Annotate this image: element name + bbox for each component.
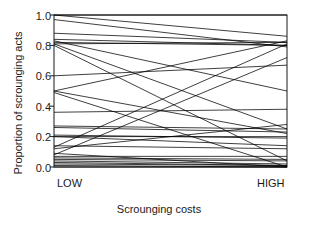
y-axis-ticks xyxy=(50,15,54,167)
x-axis-label: Scrounging costs xyxy=(0,203,318,215)
ytick-label-0: 1.0 xyxy=(19,10,51,22)
xtick-label-high: HIGH xyxy=(257,177,285,189)
y-axis-label: Proportion of scrounging acts xyxy=(12,23,24,183)
chart-figure: 1.0 0.8 0.6 0.4 0.2 0.0 LOW HIGH Proport… xyxy=(0,0,318,229)
data-lines xyxy=(54,15,287,167)
slope-chart-svg xyxy=(0,0,318,229)
xtick-label-low: LOW xyxy=(57,177,82,189)
